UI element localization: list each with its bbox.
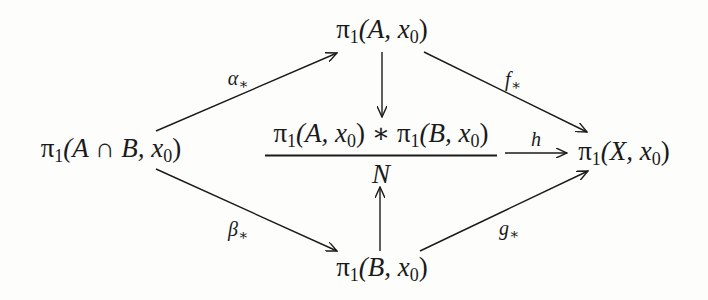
subscript: 1 [287,131,296,151]
label-f-star: f∗ [505,68,521,94]
label-beta-star: β∗ [228,218,248,244]
subscript: 1 [350,265,359,285]
subscript: 0 [347,131,356,151]
node-args: (X, x [601,136,652,166]
label-text: α [228,67,239,89]
close-paren: ) [661,136,670,166]
subscript: 1 [54,146,63,166]
label-star: ∗ [509,226,519,242]
close-paren: ) [356,118,365,148]
label-star: ∗ [238,76,248,92]
subscript: 0 [410,265,419,285]
label-alpha-star: α∗ [228,67,249,93]
node-args: (A, x [296,118,347,148]
close-paren: ) [419,14,428,44]
close-paren: ) [419,252,428,282]
subscript: 1 [592,149,601,169]
subscript: 0 [163,146,172,166]
label-star: ∗ [238,227,248,243]
pi-symbol: π [336,252,350,282]
close-paren: ) [172,133,181,163]
commutative-diagram: π1(A, x0) π1(A ∩ B, x0) π1(X, x0) π1(B, … [0,0,708,300]
pi-symbol: π [397,118,411,148]
label-g-star: g∗ [499,217,519,243]
subscript: 0 [652,149,661,169]
label-text: h [531,128,541,150]
subscript: 1 [350,27,359,47]
node-args: (A, x [359,14,410,44]
node-pi1-B: π1(B, x0) [336,254,428,284]
label-text: g [499,217,509,239]
node-pi1-A-cap-B: π1(A ∩ B, x0) [41,135,182,165]
node-pi1-X: π1(X, x0) [578,138,670,168]
free-product-operator: ∗ [365,118,397,148]
fraction-denominator: N [265,157,497,190]
node-pi1-A: π1(A, x0) [336,16,428,46]
node-args: (A ∩ B, x [63,133,163,163]
pi-symbol: π [336,14,350,44]
subscript: 0 [471,131,480,151]
subscript: 1 [411,131,420,151]
label-h: h [531,128,541,151]
pi-symbol: π [578,136,592,166]
label-star: ∗ [511,77,521,93]
label-text: β [228,218,238,240]
pi-symbol: π [41,133,55,163]
node-args: (B, x [359,252,410,282]
fraction-numerator: π1(A, x0) ∗ π1(B, x0) [265,117,497,155]
close-paren: ) [480,118,489,148]
node-args: (B, x [420,118,471,148]
pi-symbol: π [273,118,287,148]
node-free-product-quotient: π1(A, x0) ∗ π1(B, x0) N [265,117,497,190]
subscript: 0 [410,27,419,47]
